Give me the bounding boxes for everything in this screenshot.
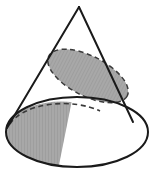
apex-point bbox=[78, 6, 80, 8]
cone-diagram-figure: Cone with elliptical cross-section and s… bbox=[0, 0, 155, 176]
cone-svg-canvas bbox=[0, 0, 155, 176]
